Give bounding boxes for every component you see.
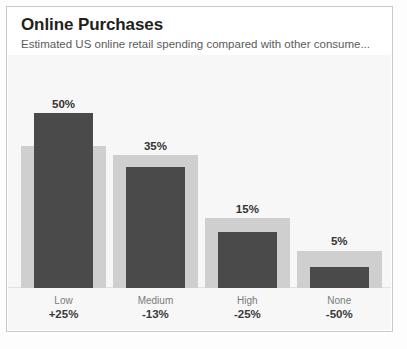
page-title: Online Purchases [21, 14, 378, 35]
delta-label: -25% [201, 307, 293, 321]
axis-label-none: None -50% [293, 288, 385, 330]
bar-group-high: 15% High -25% [201, 55, 293, 330]
category-label: Medium [109, 294, 201, 307]
axis-label-low: Low +25% [18, 288, 110, 330]
bar-group-none: 5% None -50% [293, 55, 385, 330]
delta-label: +25% [18, 307, 110, 321]
category-label: High [201, 294, 293, 307]
bar-group-low: 50% Low +25% [18, 55, 110, 330]
bar-stack: 50% [18, 55, 110, 288]
bar-stack: 5% [293, 55, 385, 288]
category-label: None [293, 294, 385, 307]
bar-group-medium: 35% Medium -13% [109, 55, 201, 330]
bar-value-label-high: 15% [201, 203, 293, 215]
bar-value-label-low: 50% [18, 98, 110, 110]
card-subtitle: Estimated US online retail spending comp… [21, 37, 378, 52]
delta-label: -50% [293, 307, 385, 321]
axis-label-medium: Medium -13% [109, 288, 201, 330]
delta-label: -13% [109, 307, 201, 321]
bar-value-label-none: 5% [293, 235, 385, 247]
bar-foreground-none[interactable] [310, 267, 369, 288]
bar-foreground-medium[interactable] [126, 167, 185, 288]
bar-value-label-medium: 35% [109, 140, 201, 152]
category-label: Low [18, 294, 110, 307]
bar-foreground-low[interactable] [34, 113, 93, 288]
chart-card: Online Purchases Estimated US online ret… [6, 6, 393, 332]
bar-foreground-high[interactable] [218, 232, 277, 288]
card-header: Online Purchases Estimated US online ret… [7, 7, 392, 55]
bar-stack: 15% [201, 55, 293, 288]
axis-label-high: High -25% [201, 288, 293, 330]
bar-stack: 35% [109, 55, 201, 288]
bar-chart-plot-area: 50% Low +25% 35% Medium -13% 15% [8, 55, 391, 330]
